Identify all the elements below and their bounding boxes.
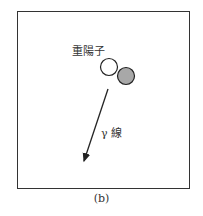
neutron-circle	[118, 68, 135, 85]
figure-caption: (b)	[0, 192, 203, 205]
proton-circle	[101, 59, 118, 76]
diagram-graphics	[0, 0, 203, 216]
gamma-ray-label: γ 線	[101, 124, 122, 140]
deuteron-label: 重陽子	[72, 42, 105, 58]
